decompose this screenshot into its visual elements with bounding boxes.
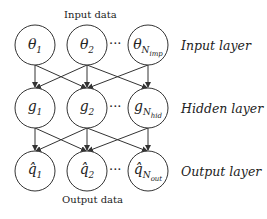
output-node-2-label: q̂2 (67, 161, 107, 180)
input-node-2-label: θ2 (67, 36, 107, 55)
output-layer-label: Output layer (181, 164, 261, 179)
input-ellipsis: ··· (109, 36, 121, 51)
hidden-node-1-label: g1 (15, 98, 55, 117)
connections-input-hidden (35, 65, 148, 88)
output-ellipsis: ··· (109, 162, 121, 177)
output-data-caption: Output data (62, 194, 123, 205)
connections-hidden-output (35, 128, 148, 151)
input-node-n-label: θNimp (128, 36, 168, 58)
output-node-n-label: q̂Nout (128, 161, 168, 183)
hidden-ellipsis: ··· (109, 99, 121, 114)
hidden-layer-label: Hidden layer (181, 101, 263, 116)
hidden-node-n-label: gNhid (128, 98, 168, 120)
input-data-caption: Input data (64, 9, 117, 20)
input-layer-label: Input layer (181, 38, 251, 53)
input-node-1-label: θ1 (15, 36, 55, 55)
hidden-node-2-label: g2 (67, 98, 107, 117)
output-node-1-label: q̂1 (15, 161, 55, 180)
